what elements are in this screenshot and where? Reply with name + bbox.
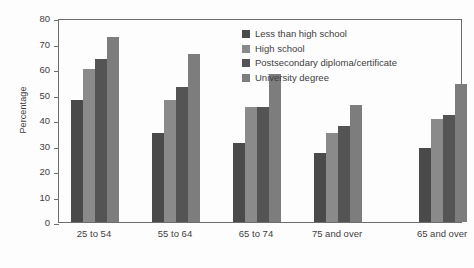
bar-group: [152, 20, 200, 222]
y-axis-tick: [54, 148, 59, 149]
legend-label: High school: [255, 44, 305, 54]
bar: [455, 84, 467, 222]
y-axis-tick: [54, 173, 59, 174]
bar: [95, 59, 107, 222]
legend-swatch-icon: [242, 59, 250, 67]
bar-group: [71, 20, 119, 222]
y-axis-tick-label: 60: [22, 64, 50, 75]
bar: [233, 143, 245, 222]
y-axis-tick: [54, 122, 59, 123]
y-axis-tick-label: 20: [22, 166, 50, 177]
x-axis-tick-label: 65 and over: [417, 228, 467, 239]
legend-swatch-icon: [242, 74, 250, 82]
x-axis-tick-label: 65 to 74: [239, 228, 273, 239]
legend-label: Postsecondary diploma/certificate: [255, 58, 397, 68]
x-axis-tick-label: 55 to 64: [158, 228, 192, 239]
y-axis-tick-label: 80: [22, 13, 50, 24]
y-axis-tick-label: 40: [22, 115, 50, 126]
bar: [83, 69, 95, 222]
legend-label: Less than high school: [255, 29, 347, 39]
bar: [107, 37, 119, 222]
bar: [152, 133, 164, 222]
bar: [314, 153, 326, 222]
y-axis-tick-label: 10: [22, 192, 50, 203]
bar: [419, 148, 431, 222]
bar: [350, 105, 362, 222]
bar: [188, 54, 200, 222]
bar-chart: Percentage Less than high school High sc…: [0, 0, 474, 268]
y-axis-tick: [54, 97, 59, 98]
y-axis-tick: [54, 224, 59, 225]
plot-area: Less than high school High school Postse…: [58, 19, 462, 223]
y-axis-tick: [54, 199, 59, 200]
bar: [338, 126, 350, 222]
legend-item: Postsecondary diploma/certificate: [242, 57, 397, 69]
y-axis-tick-label: 30: [22, 141, 50, 152]
y-axis-title: Percentage: [18, 40, 28, 180]
y-axis-tick: [54, 71, 59, 72]
y-axis-tick: [54, 20, 59, 21]
bar: [269, 74, 281, 222]
bar-group: [419, 20, 467, 222]
legend-item: Less than high school: [242, 28, 397, 40]
y-axis-tick-label: 70: [22, 39, 50, 50]
y-axis-tick-label: 0: [22, 217, 50, 228]
bar: [164, 100, 176, 222]
bar: [326, 133, 338, 222]
bar: [431, 119, 443, 222]
legend: Less than high school High school Postse…: [242, 28, 397, 84]
bar: [443, 115, 455, 222]
legend-label: University degree: [255, 73, 329, 83]
legend-item: High school: [242, 43, 397, 55]
bar: [245, 107, 257, 222]
legend-item: University degree: [242, 72, 397, 84]
legend-swatch-icon: [242, 30, 250, 38]
x-axis-tick-label: 25 to 54: [77, 228, 111, 239]
bar: [176, 87, 188, 222]
legend-swatch-icon: [242, 45, 250, 53]
y-axis-tick: [54, 46, 59, 47]
x-axis-tick-label: 75 and over: [312, 228, 362, 239]
bar: [71, 100, 83, 222]
y-axis-tick-label: 50: [22, 90, 50, 101]
bar: [257, 107, 269, 222]
